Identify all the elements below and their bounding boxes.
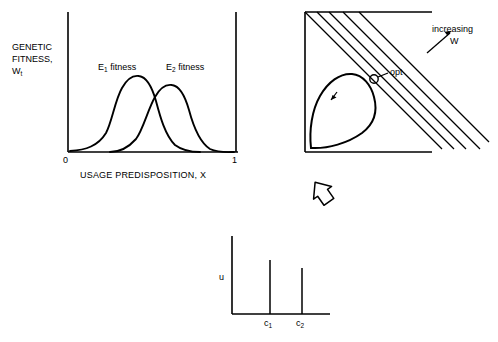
panel-a-y-axis-label-line3: Wt [12,66,22,79]
panel-a-y-axis-label-line1: GENETIC [12,42,52,53]
panel-c-spike-c2-label-subscript: 2 [301,322,305,329]
panel-a-axes [68,12,238,152]
panel-b-increasing-label: increasing [432,24,473,35]
panel-a-curve-e2-label: E2 fitness [166,62,204,75]
panel-a-y-axis-label-subscript: t [21,70,23,77]
panel-a-x-tick-right: 1 [232,155,237,166]
panel-a-x-axis-label: USAGE PREDISPOSITION, X [80,170,206,181]
panel-b-opt-label: opt [390,67,403,78]
panel-c-spike-c1-label: c1 [264,318,272,331]
panel-c-y-axis-label: u [219,272,224,283]
panel-a-curve-e2-label-tail: fitness [176,62,205,72]
panel-a-curve-e1-label-tail: fitness [108,62,137,72]
panel-a-x-tick-left: 0 [63,155,68,166]
panel-a-y-axis-label-line2: FITNESS, [12,54,53,65]
panel-b-w-label: W [450,36,459,47]
panel-c-spike-c1-label-subscript: 1 [269,322,273,329]
panel-c-spike-c2-label: c2 [296,318,304,331]
panel-a-curve-e1-label: E1 fitness [98,62,136,75]
panel-a-y-axis-label-w: W [12,66,21,76]
figure-canvas [0,0,498,342]
